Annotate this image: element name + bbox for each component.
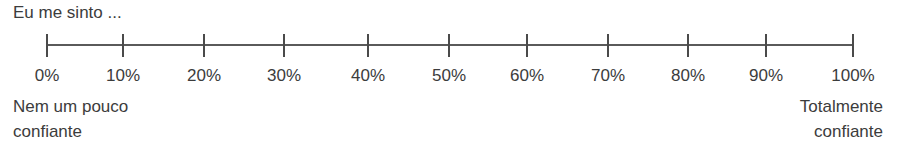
- right-anchor-label: Totalmente confiante: [800, 94, 883, 144]
- scale-tick-label: 10%: [106, 66, 140, 86]
- scale-tick-label: 90%: [749, 66, 783, 86]
- scale-tick[interactable]: [765, 34, 767, 57]
- scale-tick-label: 0%: [35, 66, 60, 86]
- scale-tick-label: 40%: [351, 66, 385, 86]
- scale-tick[interactable]: [687, 34, 689, 57]
- scale-tick[interactable]: [122, 34, 124, 57]
- scale-tick-label: 50%: [432, 66, 466, 86]
- left-anchor-line2: confiante: [13, 119, 128, 144]
- confidence-scale: 0%10%20%30%40%50%60%70%80%90%100%: [0, 0, 900, 149]
- scale-tick-label: 20%: [187, 66, 221, 86]
- scale-tick-label: 60%: [510, 66, 544, 86]
- right-anchor-line2: confiante: [800, 119, 883, 144]
- scale-tick[interactable]: [607, 34, 609, 57]
- scale-tick[interactable]: [46, 34, 48, 57]
- scale-tick[interactable]: [852, 34, 854, 57]
- scale-tick-label: 80%: [671, 66, 705, 86]
- scale-tick[interactable]: [203, 34, 205, 57]
- scale-tick[interactable]: [367, 34, 369, 57]
- scale-tick-label: 30%: [267, 66, 301, 86]
- left-anchor-line1: Nem um pouco: [13, 94, 128, 119]
- left-anchor-label: Nem um pouco confiante: [13, 94, 128, 144]
- right-anchor-line1: Totalmente: [800, 94, 883, 119]
- scale-axis-line: [47, 44, 853, 46]
- scale-tick[interactable]: [448, 34, 450, 57]
- scale-tick-label: 100%: [831, 66, 874, 86]
- scale-tick[interactable]: [283, 34, 285, 57]
- scale-tick[interactable]: [526, 34, 528, 57]
- scale-tick-label: 70%: [591, 66, 625, 86]
